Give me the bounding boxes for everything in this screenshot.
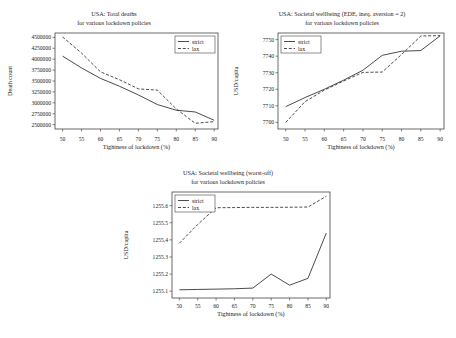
y-tick-label: 7700 <box>263 119 274 125</box>
chart-title-line1: USA: Total deaths <box>0 10 228 19</box>
x-tick-label: 90 <box>324 303 330 309</box>
x-tick-label: 65 <box>232 303 238 309</box>
chart-legend: strictlax <box>281 36 321 53</box>
x-tick-label: 60 <box>322 136 328 142</box>
legend-label-strict: strict <box>192 198 204 204</box>
chart-title-line2: for various lockdown policies <box>228 19 456 28</box>
y-tick-label: 1255.6 <box>153 203 169 209</box>
x-tick-label: 70 <box>360 136 366 142</box>
x-tick-label: 65 <box>117 136 123 142</box>
chart-svg-wellbeing-worst-off: 1255.11255.21255.31255.41255.51255.65055… <box>114 186 342 336</box>
chart-legend: strictlax <box>175 195 215 212</box>
y-tick-label: 7750 <box>263 37 274 43</box>
y-tick-label: 3000000 <box>31 100 51 106</box>
y-tick-label: 4250000 <box>31 45 51 51</box>
chart-title-line1: USA: Societal wellbeing (worst-off) <box>114 169 342 178</box>
plot-area-wellbeing-ede: 7700771077207730774077505055606570758085… <box>228 27 456 167</box>
x-tick-label: 80 <box>399 136 405 142</box>
series-line-strict <box>63 56 215 120</box>
x-tick-label: 75 <box>379 136 385 142</box>
series-line-strict <box>179 233 326 290</box>
x-tick-label: 85 <box>418 136 424 142</box>
y-tick-label: 2500000 <box>31 122 51 128</box>
x-tick-label: 50 <box>177 303 183 309</box>
chart-legend: strictlax <box>175 36 215 53</box>
y-tick-label: 7740 <box>263 53 274 59</box>
chart-svg-total-deaths: 2500000275000030000003250000350000037500… <box>0 27 228 167</box>
y-axis-label: Death count <box>6 66 13 96</box>
y-tick-label: 2750000 <box>31 111 51 117</box>
x-tick-label: 70 <box>250 303 256 309</box>
chart-title-wellbeing-ede: USA: Societal wellbeing (EDE, ineq. aver… <box>228 6 456 27</box>
y-tick-label: 1255.3 <box>153 254 169 260</box>
x-tick-label: 75 <box>268 303 274 309</box>
y-tick-label: 4500000 <box>31 34 51 40</box>
chart-title-total-deaths: USA: Total deaths for various lockdown p… <box>0 6 228 27</box>
y-tick-label: 1255.4 <box>153 237 169 243</box>
y-axis-label: USD/capita <box>232 66 239 95</box>
x-axis-label: Tightness of lockdown (%) <box>327 143 394 151</box>
y-tick-label: 7720 <box>263 86 274 92</box>
chart-title-wellbeing-worst-off: USA: Societal wellbeing (worst-off) for … <box>114 166 342 186</box>
panel-total-deaths: USA: Total deaths for various lockdown p… <box>0 6 228 168</box>
y-tick-label: 4000000 <box>31 56 51 62</box>
y-tick-label: 1255.2 <box>153 271 169 277</box>
plot-area-wellbeing-worst-off: 1255.11255.21255.31255.41255.51255.65055… <box>114 186 342 336</box>
x-tick-label: 55 <box>302 136 308 142</box>
x-tick-label: 85 <box>192 136 198 142</box>
plot-area-total-deaths: 2500000275000030000003250000350000037500… <box>0 27 228 167</box>
x-tick-label: 50 <box>283 136 289 142</box>
x-tick-label: 80 <box>287 303 293 309</box>
y-tick-label: 3500000 <box>31 78 51 84</box>
y-tick-label: 7710 <box>263 103 274 109</box>
x-tick-label: 90 <box>437 136 443 142</box>
x-tick-label: 80 <box>174 136 180 142</box>
y-tick-label: 3750000 <box>31 67 51 73</box>
y-tick-label: 1255.1 <box>153 288 169 294</box>
legend-label-lax: lax <box>298 46 305 52</box>
x-tick-label: 85 <box>305 303 311 309</box>
figure-root: USA: Total deaths for various lockdown p… <box>0 0 456 338</box>
x-axis-label: Tightness of lockdown (%) <box>103 143 170 151</box>
x-tick-label: 90 <box>211 136 217 142</box>
legend-label-lax: lax <box>192 46 199 52</box>
chart-svg-wellbeing-ede: 7700771077207730774077505055606570758085… <box>228 27 456 167</box>
x-tick-label: 70 <box>136 136 142 142</box>
x-tick-label: 75 <box>155 136 161 142</box>
panel-wellbeing-ede: USA: Societal wellbeing (EDE, ineq. aver… <box>228 6 456 168</box>
legend-label-lax: lax <box>192 205 199 211</box>
y-tick-label: 7730 <box>263 70 274 76</box>
x-tick-label: 60 <box>213 303 219 309</box>
x-tick-label: 55 <box>79 136 85 142</box>
y-tick-label: 1255.5 <box>153 220 169 226</box>
chart-title-line2: for various lockdown policies <box>0 19 228 28</box>
y-axis-label: USD/capita <box>122 230 129 259</box>
x-tick-label: 60 <box>98 136 104 142</box>
legend-label-strict: strict <box>298 39 310 45</box>
legend-label-strict: strict <box>192 39 204 45</box>
y-tick-label: 3250000 <box>31 89 51 95</box>
x-tick-label: 50 <box>60 136 66 142</box>
x-tick-label: 65 <box>341 136 347 142</box>
chart-title-line2: for various lockdown policies <box>114 178 342 187</box>
x-tick-label: 55 <box>195 303 201 309</box>
chart-title-line1: USA: Societal wellbeing (EDE, ineq. aver… <box>228 10 456 19</box>
x-axis-label: Tightness of lockdown (%) <box>217 310 284 318</box>
panel-wellbeing-worst-off: USA: Societal wellbeing (worst-off) for … <box>114 166 342 338</box>
